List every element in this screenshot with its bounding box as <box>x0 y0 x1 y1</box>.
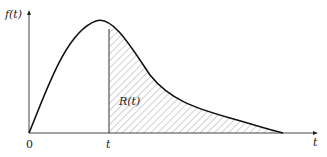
density-diagram: f(t) 0 t t R(t) <box>0 0 327 157</box>
x-axis-arrow-icon <box>313 131 318 135</box>
reliability-region-shading <box>29 20 283 133</box>
origin-label: 0 <box>26 138 33 151</box>
y-axis-arrow-icon <box>27 10 31 15</box>
x-axis-label: t <box>313 136 318 149</box>
y-axis-label: f(t) <box>4 8 22 21</box>
t-marker-label: t <box>106 138 111 151</box>
region-label: R(t) <box>118 95 140 108</box>
